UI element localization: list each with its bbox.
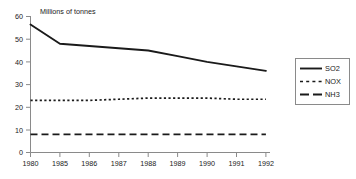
y-tick-label: 0 bbox=[19, 148, 23, 157]
x-tick-label: 1986 bbox=[81, 159, 97, 168]
y-tick-label: 20 bbox=[15, 103, 23, 112]
line-chart: 60 50 40 30 20 10 0 Millions of tonnes 1… bbox=[0, 0, 356, 179]
x-axis-ticks bbox=[31, 153, 266, 158]
legend-label-nh3: NH3 bbox=[325, 90, 340, 99]
legend-box bbox=[296, 59, 350, 105]
y-tick-label: 30 bbox=[15, 80, 23, 89]
x-tick-label: 1985 bbox=[52, 159, 68, 168]
x-tick-label: 1987 bbox=[111, 159, 127, 168]
y-tick-label: 10 bbox=[15, 126, 23, 135]
chart-canvas: 60 50 40 30 20 10 0 Millions of tonnes 1… bbox=[0, 0, 356, 179]
y-tick-label: 60 bbox=[15, 12, 23, 21]
y-axis-tick-labels: 60 50 40 30 20 10 0 bbox=[15, 12, 23, 157]
series-line-so2 bbox=[31, 24, 266, 70]
y-tick-label: 50 bbox=[15, 35, 23, 44]
y-tick-label: 40 bbox=[15, 58, 23, 67]
x-axis-tick-labels: 1980 1985 1986 1987 1988 1989 1990 1991 … bbox=[23, 159, 274, 168]
y-axis-ticks bbox=[26, 17, 31, 153]
x-tick-label: 1988 bbox=[140, 159, 156, 168]
legend-label-so2: SO2 bbox=[325, 64, 340, 73]
series-line-nox bbox=[31, 98, 266, 100]
x-tick-label: 1990 bbox=[199, 159, 215, 168]
x-tick-label: 1992 bbox=[258, 159, 274, 168]
legend-label-nox: NOX bbox=[325, 77, 341, 86]
x-tick-label: 1991 bbox=[229, 159, 245, 168]
x-tick-label: 1989 bbox=[170, 159, 186, 168]
chart-legend: SO2 NOX NH3 bbox=[296, 59, 350, 105]
y-axis-title: Millions of tonnes bbox=[40, 7, 96, 16]
x-tick-label: 1980 bbox=[23, 159, 39, 168]
